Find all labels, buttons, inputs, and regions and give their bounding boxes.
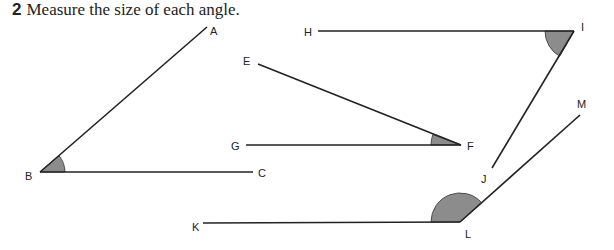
label-l: L — [465, 228, 471, 240]
angle-arc-l — [431, 193, 482, 222]
label-a: A — [210, 25, 218, 37]
label-g: G — [231, 140, 240, 152]
angle-abc: A B C — [25, 25, 266, 182]
label-c: C — [258, 167, 266, 179]
angles-figure: A B C E F G H I J K L M — [0, 0, 614, 250]
ray-lk — [203, 222, 460, 223]
label-h: H — [304, 26, 312, 38]
ray-ba — [40, 27, 207, 172]
label-e: E — [243, 55, 250, 67]
ray-lm — [460, 115, 580, 222]
angle-arc-i — [545, 31, 574, 56]
ray-ij — [492, 31, 574, 168]
angle-klm: K L M — [192, 98, 586, 240]
angle-efg: E F G — [231, 55, 474, 152]
label-m: M — [577, 98, 586, 110]
label-j: J — [481, 173, 487, 185]
label-k: K — [192, 221, 200, 233]
label-f: F — [467, 140, 474, 152]
label-i: I — [581, 21, 584, 33]
ray-fe — [258, 64, 461, 145]
label-b: B — [25, 170, 32, 182]
angle-hij: H I J — [304, 21, 584, 185]
